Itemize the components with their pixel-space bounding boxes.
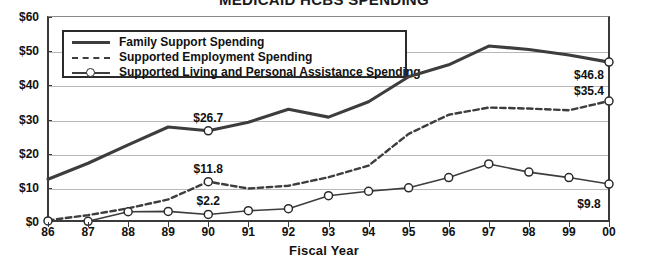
series-lines — [0, 0, 648, 265]
data-point-marker — [445, 174, 453, 182]
x-axis-tick-mark — [88, 222, 89, 227]
x-axis-tick-mark — [208, 222, 209, 227]
data-point-marker — [485, 160, 493, 168]
x-axis-tick-mark — [288, 222, 289, 227]
data-point-marker — [565, 174, 573, 182]
x-axis-tick-mark — [369, 222, 370, 227]
y-axis-tick-mark — [47, 51, 52, 52]
series-line-0 — [48, 46, 609, 179]
data-point-marker — [365, 187, 373, 195]
x-axis-tick-mark — [48, 222, 49, 227]
data-point-marker — [284, 205, 292, 213]
x-axis-tick-mark — [248, 222, 249, 227]
y-axis-tick-mark — [47, 120, 52, 121]
x-axis-tick-mark — [569, 222, 570, 227]
data-point-label: $26.7 — [193, 111, 223, 125]
data-point-marker — [525, 168, 533, 176]
data-point-marker — [325, 192, 333, 200]
data-point-marker — [204, 178, 212, 186]
x-axis-tick-mark — [128, 222, 129, 227]
y-axis-tick-mark — [47, 154, 52, 155]
x-axis-tick-mark — [409, 222, 410, 227]
series-line-1 — [48, 101, 609, 220]
data-point-label: $11.8 — [194, 162, 223, 176]
data-point-marker — [164, 207, 172, 215]
data-point-marker — [605, 180, 613, 188]
x-axis-tick-mark — [168, 222, 169, 227]
data-point-label: $35.4 — [574, 84, 604, 98]
data-point-label: $2.2 — [197, 194, 220, 208]
y-axis-tick-mark — [47, 188, 52, 189]
data-point-marker — [605, 97, 613, 105]
x-axis-tick-mark — [489, 222, 490, 227]
x-axis-tick-mark — [329, 222, 330, 227]
data-point-marker — [204, 127, 212, 135]
data-point-marker — [244, 207, 252, 215]
data-point-marker — [204, 210, 212, 218]
x-axis-tick-mark — [609, 222, 610, 227]
y-axis-tick-mark — [47, 85, 52, 86]
chart-container: MEDICAID HCBS SPENDING $0$10$20$30$40$50… — [0, 0, 648, 265]
data-point-marker — [405, 184, 413, 192]
data-point-label: $46.8 — [574, 68, 604, 82]
x-axis-tick-mark — [529, 222, 530, 227]
y-axis-tick-mark — [47, 17, 52, 18]
data-point-marker — [605, 58, 613, 66]
data-point-marker — [124, 208, 132, 216]
data-point-label: $9.8 — [577, 197, 600, 211]
x-axis-tick-mark — [449, 222, 450, 227]
